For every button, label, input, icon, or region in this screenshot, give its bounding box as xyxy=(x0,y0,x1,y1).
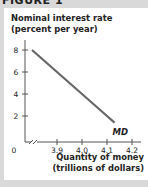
x-tick-label: 4.2 xyxy=(126,146,138,155)
y-tick-label: 2 xyxy=(14,112,19,121)
md-curve xyxy=(32,50,115,123)
chart-svg: 24683.94.04.14.20MD xyxy=(0,0,148,187)
x-tick-label: 3.9 xyxy=(51,146,63,155)
y-tick-label: 6 xyxy=(14,68,19,77)
md-curve-label: MD xyxy=(113,127,129,137)
x-tick-label: 4.0 xyxy=(76,146,88,155)
y-tick-label: 8 xyxy=(14,46,19,55)
origin-label: 0 xyxy=(12,146,17,155)
x-tick-label: 4.1 xyxy=(101,146,113,155)
axis-break-mark xyxy=(33,140,37,144)
y-tick-label: 4 xyxy=(14,90,19,99)
